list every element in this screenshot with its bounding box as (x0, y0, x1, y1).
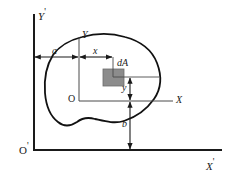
dimension-label-b: b (122, 119, 127, 129)
dimension-label-a: a (52, 46, 57, 56)
dimension-label-y: y (122, 83, 126, 93)
y-prime-axis-label: Y' (38, 8, 46, 22)
area-element-dA (103, 57, 159, 86)
element-label-dA: dA (117, 58, 128, 68)
diagram-svg (0, 0, 234, 179)
y-axis-label: Y (82, 30, 88, 40)
origin-prime-label: O' (19, 142, 29, 156)
x-prime-axis-label: X' (206, 158, 214, 172)
figure-canvas: Y' X' O' Y X O dA a x y b (0, 0, 234, 179)
origin-label: O (68, 94, 75, 104)
x-axis-label: X (176, 95, 182, 105)
outer-axes (33, 14, 222, 151)
dimension-label-x: x (93, 46, 97, 56)
area-outline (45, 34, 160, 125)
